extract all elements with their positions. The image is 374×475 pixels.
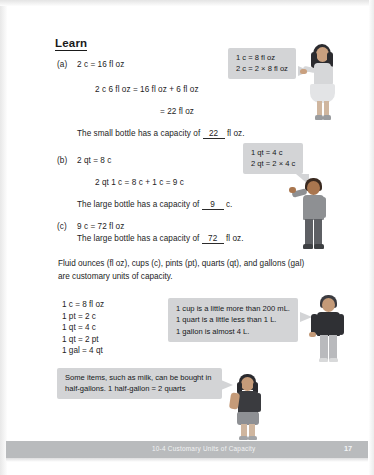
- problem-c-line1: 9 c = 72 fl oz: [77, 222, 124, 231]
- problem-a-label: (a): [57, 60, 67, 69]
- cups-conversion-bubble: 1 c = 8 fl oz 2 c = 2 × 8 fl oz: [228, 48, 296, 79]
- problem-b-answer-blank[interactable]: 9: [202, 200, 224, 210]
- page-content: Learn (a) 2 c = 16 fl oz 2 c 6 fl oz = 1…: [0, 0, 374, 475]
- cups-bubble-line2: 2 c = 2 × 8 fl oz: [236, 64, 288, 75]
- footer-lesson-title: 10-4 Customary Units of Capacity: [152, 445, 256, 452]
- cups-bubble-line1: 1 c = 8 fl oz: [236, 53, 288, 64]
- problem-b-label: (b): [57, 156, 67, 165]
- figure-person-dark-top: [309, 294, 347, 366]
- problem-b-line2: 2 qt 1 c = 8 c + 1 c = 9 c: [95, 178, 184, 187]
- problem-a-answer-prefix: The small bottle has a capacity of: [77, 129, 200, 138]
- milk-bubble-text: Some items, such as milk, can be bought …: [65, 373, 211, 393]
- figure-girl-pointing-left: [303, 44, 341, 122]
- problem-c-label: (c): [57, 222, 67, 231]
- problem-c-answer-blank[interactable]: 72: [202, 234, 224, 244]
- footer-shadow: [6, 458, 368, 462]
- problem-a-line1: 2 c = 16 fl oz: [77, 60, 124, 69]
- metric-bubble-line1: 1 cup is a little more than 200 mL.: [176, 303, 290, 314]
- learn-heading: Learn: [55, 37, 87, 51]
- metric-bubble-line2: 1 quart is a little less than 1 L.: [176, 314, 290, 325]
- milk-half-gallon-bubble: Some items, such as milk, can be bought …: [57, 368, 222, 399]
- problem-b-answer: The large bottle has a capacity of 9 c.: [77, 200, 232, 210]
- problem-a-answer-suffix: fl oz.: [227, 129, 245, 138]
- metric-comparison-bubble: 1 cup is a little more than 200 mL. 1 qu…: [168, 298, 298, 342]
- conversion-item: 1 qt = 2 pt: [62, 334, 104, 346]
- quarts-bubble-line1: 1 qt = 4 c: [251, 148, 295, 159]
- textbook-page: Learn (a) 2 c = 16 fl oz 2 c 6 fl oz = 1…: [0, 0, 374, 475]
- problem-b-answer-suffix: c.: [226, 200, 232, 209]
- problem-a-answer-blank[interactable]: 22: [203, 129, 225, 139]
- quarts-bubble-line2: 2 qt = 2 × 4 c: [251, 159, 295, 170]
- problem-c-answer-suffix: fl oz.: [226, 234, 244, 243]
- problem-a-line3: = 22 fl oz: [160, 107, 194, 116]
- problem-b-line1: 2 qt = 8 c: [77, 156, 111, 165]
- problem-b-answer-prefix: The large bottle has a capacity of: [77, 200, 199, 209]
- problem-a-line2: 2 c 6 fl oz = 16 fl oz + 6 fl oz: [95, 85, 199, 94]
- problem-c-answer-prefix: The large bottle has a capacity of: [77, 234, 199, 243]
- quarts-conversion-bubble: 1 qt = 4 c 2 qt = 2 × 4 c: [243, 143, 303, 174]
- figure-girl-dark-shirt: [228, 374, 266, 442]
- customary-units-paragraph: Fluid ounces (fl oz), cups (c), pints (p…: [58, 258, 316, 283]
- problem-c-answer: The large bottle has a capacity of 72 fl…: [77, 234, 244, 244]
- conversion-item: 1 qt = 4 c: [62, 322, 104, 334]
- conversion-item: 1 gal = 4 qt: [62, 345, 104, 357]
- conversion-item: 1 c = 8 fl oz: [62, 299, 104, 311]
- footer-page-number: 17: [344, 444, 352, 453]
- metric-bubble-line3: 1 gallon is almost 4 L.: [176, 326, 290, 337]
- figure-boy-arm-raised: [292, 176, 332, 252]
- conversion-item: 1 pt = 2 c: [62, 311, 104, 323]
- problem-a-answer: The small bottle has a capacity of 22 fl…: [77, 129, 244, 139]
- conversion-list: 1 c = 8 fl oz 1 pt = 2 c 1 qt = 4 c 1 qt…: [62, 299, 104, 357]
